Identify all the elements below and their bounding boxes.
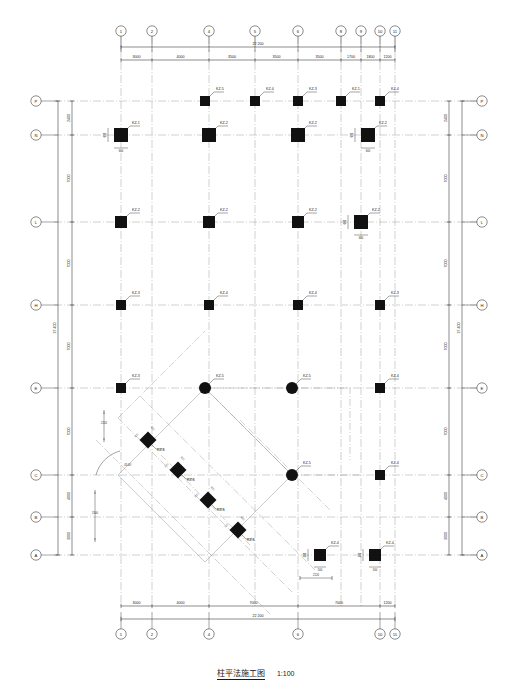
left-dimension-chain-segment-4: 7000	[67, 428, 71, 436]
column-c11-leader	[213, 213, 228, 218]
column-c11-label: KZ-2	[220, 208, 228, 212]
column-d1-dim-b: 500	[150, 425, 156, 431]
local-dim-lower-left-label: 1500	[92, 511, 98, 515]
column-c5-kz-4[interactable]	[375, 96, 385, 106]
grid-bubble-right-label-B: B	[481, 515, 484, 520]
column-c23-kz-4[interactable]	[375, 470, 385, 480]
left-dimension-chain-segment-1: 7000	[67, 175, 71, 183]
grid-bubble-right-label-A: A	[481, 553, 484, 558]
top-dimension-chain-segment-3: 3500	[273, 55, 281, 59]
left-dimension-chain-segment-2: 7000	[67, 260, 71, 268]
column-d4-kz-6[interactable]	[230, 522, 247, 539]
column-c25-dim-h-label: 500	[373, 568, 378, 572]
bottom-dimension-chain-segment-4: 1200	[384, 601, 392, 605]
left-dimension-chain-segment-6: 3000	[67, 532, 71, 540]
top-dimension-chain-segment-6: 1800	[367, 55, 375, 59]
column-c21-leader	[384, 379, 399, 384]
column-c24-dim-v-label: 500	[303, 552, 307, 557]
column-c6-label: KZ-1	[132, 121, 140, 125]
grid-bubble-top-label-10: 10	[378, 29, 383, 34]
column-d4-dim-a: 500	[223, 522, 229, 528]
column-c10-leader	[125, 213, 140, 218]
column-c4-kz-1[interactable]	[336, 96, 346, 106]
grid-bubble-right-label-N: N	[480, 133, 483, 138]
column-c9-dim-h-label: 600	[366, 149, 371, 153]
right-dimension-chain-segment-5: 4000	[444, 492, 448, 500]
column-c17-kz-3[interactable]	[375, 300, 385, 310]
column-c15-leader	[213, 296, 228, 301]
column-c14-label: KZ-3	[132, 291, 140, 295]
column-c2-label: KZ-4	[266, 87, 274, 91]
column-d3-kz-6[interactable]	[200, 492, 217, 509]
column-c21-kz-4[interactable]	[375, 383, 385, 393]
column-c14-kz-3[interactable]	[116, 300, 126, 310]
column-c3-kz-3[interactable]	[293, 96, 303, 106]
column-d3-label: KZ-6	[217, 508, 225, 512]
column-c22-leader	[296, 466, 311, 471]
right-dimension-chain-segment-3: 7000	[444, 343, 448, 351]
column-c9-dim-v-label: 600	[350, 132, 354, 137]
column-c24-dim-h-label: 500	[318, 568, 323, 572]
column-c19-label: KZ-5	[216, 374, 224, 378]
bottom-total-label: 22 200	[253, 614, 264, 618]
column-d4-dim-b: 500	[240, 515, 246, 521]
column-c24-leader	[324, 546, 339, 551]
drawing-title: 柱平法施工图	[217, 669, 265, 680]
column-c22-label: KZ-5	[303, 461, 311, 465]
column-c15-kz-4[interactable]	[204, 300, 214, 310]
column-c2-kz-4[interactable]	[250, 96, 260, 106]
bottom-dimension-chain-segment-0: 3000	[133, 601, 141, 605]
column-c6-dim-v-label: 600	[103, 132, 107, 137]
grid-bubble-right-label-P: P	[481, 99, 484, 104]
column-c23-label: KZ-4	[391, 461, 399, 465]
left-total-label: 37 400	[53, 323, 57, 334]
top-dimension-chain-segment-0: 3000	[133, 55, 141, 59]
column-c4-leader	[345, 92, 360, 97]
drawing-scale: 1:100	[277, 670, 295, 677]
bottom-dimension-chain-segment-1: 4000	[177, 601, 185, 605]
column-d1-kz-6[interactable]	[140, 432, 157, 449]
column-c17-label: KZ-3	[391, 291, 399, 295]
column-c20-label: KZ-5	[303, 374, 311, 378]
grid-bubble-left-label-C: C	[34, 473, 37, 478]
column-c1-kz-5[interactable]	[200, 96, 210, 106]
column-c20-leader	[296, 379, 311, 384]
column-c16-leader	[302, 296, 317, 301]
column-c3-label: KZ-3	[309, 87, 317, 91]
left-dimension-chain-segment-3: 7000	[67, 343, 71, 351]
grid-bubble-left-label-N: N	[34, 133, 37, 138]
column-c10-label: KZ-2	[132, 208, 140, 212]
column-c18-kz-3[interactable]	[116, 383, 126, 393]
grid-bubble-left-label-H: H	[34, 303, 37, 308]
column-c6-dim-h-label: 600	[119, 149, 124, 153]
column-c9-label: KZ-2	[379, 121, 387, 125]
structural-plan-drawing: 1245689101112461011PPNNLLHHEECCBBAA30004…	[0, 0, 511, 690]
column-c12-label: KZ-2	[309, 208, 317, 212]
column-d1-label: KZ-6	[157, 448, 165, 452]
column-d2-kz-6[interactable]	[170, 462, 187, 479]
drawing-sheet: 1245689101112461011PPNNLLHHEECCBBAA30004…	[0, 0, 511, 690]
right-total-label: 37 400	[457, 323, 461, 334]
top-dimension-chain-segment-5: 1700	[347, 55, 355, 59]
grid-bubble-left-label-E: E	[35, 386, 38, 391]
right-dimension-chain-segment-6: 3000	[444, 532, 448, 540]
column-c8-label: KZ-2	[309, 121, 317, 125]
column-c4-label: KZ-1	[352, 87, 360, 91]
column-c2-leader	[259, 92, 274, 97]
column-c16-kz-4[interactable]	[293, 300, 303, 310]
column-c19-leader	[209, 379, 224, 384]
rotated-grid-line-1	[140, 396, 315, 570]
column-c14-leader	[125, 296, 140, 301]
rotated-grid-line-2	[96, 440, 270, 614]
column-c24-label: KZ-4	[331, 541, 339, 545]
right-dimension-chain-segment-4: 7000	[444, 428, 448, 436]
column-c3-leader	[302, 92, 317, 97]
top-dimension-chain-segment-2: 3500	[228, 55, 236, 59]
column-c1-label: KZ-5	[216, 87, 224, 91]
column-c23-leader	[384, 466, 399, 471]
drawing-title-block: 柱平法施工图 1:100	[0, 662, 511, 680]
column-c25-leader	[379, 546, 394, 551]
top-dimension-chain-segment-7: 1200	[384, 55, 392, 59]
grid-bubble-left-label-P: P	[35, 99, 38, 104]
column-c25-dim-v-label: 500	[358, 552, 362, 557]
